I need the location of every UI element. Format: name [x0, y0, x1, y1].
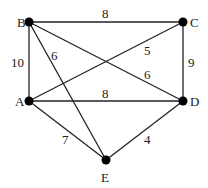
node-label-A: A — [15, 94, 25, 109]
node-label-C: C — [190, 15, 199, 30]
edge-weight-BA: 10 — [11, 55, 24, 70]
node-label-E: E — [101, 170, 109, 185]
edge-weight-DE: 4 — [144, 132, 151, 147]
node-label-D: D — [190, 94, 199, 109]
edge-weight-CD: 9 — [188, 55, 195, 70]
node-label-B: B — [17, 15, 26, 30]
edge-DE — [106, 101, 183, 160]
node-B — [25, 18, 34, 27]
graph-diagram: 8106569874 BCADE — [0, 0, 208, 188]
node-C — [179, 18, 188, 27]
edge-weight-CA: 5 — [144, 43, 151, 58]
edge-weight-BC: 8 — [102, 6, 109, 21]
edge-weight-BD: 6 — [144, 67, 151, 82]
node-E — [102, 156, 111, 165]
node-D — [179, 97, 188, 106]
node-A — [25, 97, 34, 106]
edge-weight-AD: 8 — [102, 86, 109, 101]
edge-weight-AE: 7 — [62, 132, 69, 147]
edge-weight-BE: 6 — [51, 48, 58, 63]
edge-AE — [29, 101, 106, 160]
